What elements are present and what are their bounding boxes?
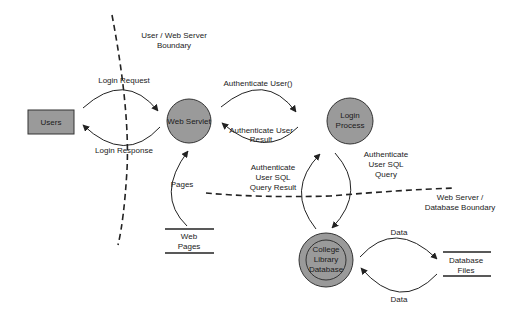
flow-login-response-label: Login Response <box>95 146 153 155</box>
college-db-label-3: Database <box>309 265 344 274</box>
flow-sql-result-label-2: User SQL <box>255 173 291 182</box>
process-web-servlet[interactable]: Web Servlet <box>167 99 211 143</box>
web-db-boundary-label-2: Database Boundary <box>425 203 496 212</box>
web-servlet-label: Web Servlet <box>167 117 211 126</box>
college-db-label-1: College <box>312 245 340 254</box>
flow-data-in-label: Data <box>391 295 408 304</box>
flow-login-response[interactable]: Login Response <box>83 125 160 155</box>
login-process-label-1: Login <box>340 111 360 120</box>
flow-login-request-label: Login Request <box>98 76 150 85</box>
flow-sql-query-label-3: Query <box>375 170 397 179</box>
entity-users[interactable]: Users <box>28 110 74 134</box>
flow-sql-result-label-1: Authenticate <box>251 163 296 172</box>
flow-data-to-files[interactable]: Data <box>360 228 437 259</box>
web-pages-label-2: Pages <box>178 242 201 251</box>
flow-authenticate-user[interactable]: Authenticate User() <box>221 79 296 112</box>
flow-pages[interactable]: Pages <box>171 151 194 226</box>
store-web-pages[interactable]: Web Pages <box>165 229 214 253</box>
flow-auth-result-label-1: Authenticate User <box>229 126 293 135</box>
process-college-library-database[interactable]: College Library Database <box>299 233 353 287</box>
flow-auth-sql-query-result[interactable]: Authenticate User SQL Query Result <box>250 154 320 229</box>
login-process-label-2: Process <box>336 121 365 130</box>
flow-data-from-files[interactable]: Data <box>361 268 437 304</box>
college-db-label-2: Library <box>314 255 338 264</box>
data-flow-diagram: User / Web Server Boundary Web Server / … <box>0 0 512 320</box>
user-web-boundary-label-2: Boundary <box>157 41 191 50</box>
flow-sql-result-label-3: Query Result <box>250 183 297 192</box>
flow-sql-query-label-2: User SQL <box>368 160 404 169</box>
web-db-boundary-label-1: Web Server / <box>437 193 484 202</box>
store-database-files[interactable]: Database Files <box>443 252 491 276</box>
user-web-boundary-line <box>112 15 127 245</box>
flow-login-request[interactable]: Login Request <box>83 76 158 111</box>
flow-authenticate-user-result[interactable]: Authenticate User Result <box>222 123 298 144</box>
web-pages-label-1: Web <box>181 232 198 241</box>
db-files-label-1: Database <box>449 256 484 265</box>
web-db-boundary-line <box>206 188 455 197</box>
flow-authenticate-user-label: Authenticate User() <box>224 79 293 88</box>
flow-auth-sql-query[interactable]: Authenticate User SQL Query <box>332 150 409 228</box>
flow-data-out-label: Data <box>391 228 408 237</box>
entity-users-label: Users <box>41 118 62 127</box>
flow-sql-query-label-1: Authenticate <box>364 150 409 159</box>
db-files-label-2: Files <box>458 266 475 275</box>
process-login[interactable]: Login Process <box>327 98 373 144</box>
flow-pages-label: Pages <box>171 180 194 189</box>
flow-auth-result-label-2: Result <box>250 135 273 144</box>
user-web-boundary-label-1: User / Web Server <box>141 31 207 40</box>
